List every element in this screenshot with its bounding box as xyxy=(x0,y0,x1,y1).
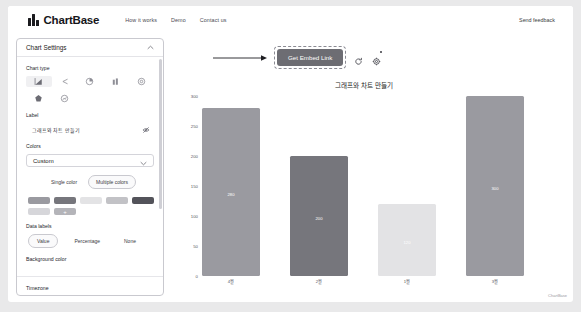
color-swatch[interactable] xyxy=(106,197,128,204)
brand-logo[interactable]: ChartBase xyxy=(28,14,99,26)
bar-logo-icon xyxy=(28,14,39,26)
bar[interactable]: 200 xyxy=(290,156,348,276)
timezone-label: Timezone xyxy=(26,285,154,291)
column-chart-icon[interactable] xyxy=(103,76,129,87)
colors-label: Colors xyxy=(26,143,154,149)
color-swatch[interactable] xyxy=(80,197,102,204)
label-field-value: 그래프와 차트 만들기 xyxy=(32,126,80,133)
bar[interactable]: 120 xyxy=(378,204,436,276)
settings-badge xyxy=(380,51,382,53)
bar-chart-icon[interactable] xyxy=(26,76,52,87)
label-field-label: Label xyxy=(26,112,154,118)
chart-settings-header[interactable]: Chart Settings xyxy=(17,39,163,57)
single-color-button[interactable]: Single color xyxy=(44,176,84,188)
sidebar-scrollbar[interactable] xyxy=(159,59,162,209)
chart-settings-panel: Chart Settings Chart type xyxy=(16,38,164,296)
nav-link-contact-us[interactable]: Contact us xyxy=(200,17,227,23)
donut-chart-icon[interactable] xyxy=(128,76,154,87)
eye-off-icon[interactable] xyxy=(142,120,150,138)
y-tick: 100 xyxy=(176,213,198,218)
sidebar-divider xyxy=(17,276,163,277)
y-tick: 200 xyxy=(176,153,198,158)
background-color-label: Background color xyxy=(26,256,154,262)
data-labels-section: Data labels Value Percentage None xyxy=(17,223,163,248)
bar[interactable]: 280 xyxy=(202,108,260,276)
nav-link-demo[interactable]: Demo xyxy=(171,17,186,23)
chevron-up-icon[interactable] xyxy=(147,45,154,51)
line-chart-icon[interactable] xyxy=(52,76,78,87)
x-axis: 4월 2월 1월 3월 xyxy=(202,278,524,284)
panel-title: Chart Settings xyxy=(26,44,67,51)
x-tick: 1월 xyxy=(378,278,436,284)
get-embed-link-highlight: Get Embed Link xyxy=(274,46,346,69)
data-label-none-button[interactable]: None xyxy=(116,235,144,247)
chevron-down-icon[interactable] xyxy=(140,152,147,170)
color-swatch[interactable] xyxy=(28,197,50,204)
bar-value-label: 120 xyxy=(378,240,436,245)
y-tick: 50 xyxy=(176,243,198,248)
color-swatches: + xyxy=(26,197,154,215)
timezone-section[interactable]: Timezone xyxy=(17,285,163,291)
add-color-button[interactable]: + xyxy=(54,208,76,215)
y-axis: 300 250 200 150 100 50 0 xyxy=(176,96,198,276)
chart-type-section: Chart type xyxy=(17,65,163,104)
chart-plot: 300 250 200 150 100 50 0 280 200 xyxy=(164,96,564,286)
top-navbar: ChartBase How it works Demo Contact us S… xyxy=(8,6,573,34)
data-label-percentage-button[interactable]: Percentage xyxy=(66,235,108,247)
send-feedback-link[interactable]: Send feedback xyxy=(519,17,555,23)
bar-value-label: 300 xyxy=(466,186,524,191)
chart-type-options xyxy=(26,76,154,104)
data-labels-options: Value Percentage None xyxy=(26,234,154,248)
colors-select-value: Custom xyxy=(33,158,54,164)
multiple-colors-button[interactable]: Multiple colors xyxy=(88,175,136,189)
pie-chart-icon[interactable] xyxy=(77,76,103,87)
bar-value-label: 280 xyxy=(202,192,260,197)
nav-link-how-it-works[interactable]: How it works xyxy=(125,17,157,23)
y-tick: 300 xyxy=(176,94,198,99)
data-label-value-button[interactable]: Value xyxy=(28,234,58,248)
color-mode-toggle: Single color Multiple colors xyxy=(26,175,154,189)
app-window: ChartBase How it works Demo Contact us S… xyxy=(8,6,573,302)
background-color-section[interactable]: Background color xyxy=(17,256,163,262)
data-labels-label: Data labels xyxy=(26,223,154,229)
get-embed-link-button[interactable]: Get Embed Link xyxy=(277,49,343,66)
color-swatch[interactable] xyxy=(132,197,154,204)
y-tick: 250 xyxy=(176,123,198,128)
bar-slot: 120 xyxy=(378,96,436,276)
y-tick: 0 xyxy=(176,274,198,279)
color-swatch[interactable] xyxy=(54,197,76,204)
bar-series: 280 200 120 300 xyxy=(202,96,524,276)
color-swatch[interactable] xyxy=(28,208,50,215)
bar-value-label: 200 xyxy=(290,216,348,221)
bar-slot: 300 xyxy=(466,96,524,276)
radar-chart-icon[interactable] xyxy=(26,93,52,104)
x-tick: 3월 xyxy=(466,278,524,284)
chart-title: 그래프와 차트 만들기 xyxy=(164,80,564,90)
nav-links: How it works Demo Contact us xyxy=(125,17,226,23)
colors-section: Colors Custom Single color Multiple colo… xyxy=(17,143,163,215)
bar[interactable]: 300 xyxy=(466,96,524,276)
label-value-row[interactable]: 그래프와 차트 만들기 xyxy=(26,123,154,135)
x-tick: 4월 xyxy=(202,278,260,284)
brand-name: ChartBase xyxy=(44,14,100,26)
gear-icon[interactable] xyxy=(372,52,381,70)
bar-slot: 280 xyxy=(202,96,260,276)
label-section: Label 그래프와 차트 만들기 xyxy=(17,112,163,135)
bubble-chart-icon[interactable] xyxy=(52,93,78,104)
watermark: ChartBase xyxy=(548,293,567,298)
y-tick: 150 xyxy=(176,184,198,189)
bar-slot: 200 xyxy=(290,96,348,276)
annotation-arrow xyxy=(213,54,268,62)
x-tick: 2월 xyxy=(290,278,348,284)
chart-type-label: Chart type xyxy=(26,65,154,71)
chart-canvas: 그래프와 차트 만들기 300 250 200 150 100 50 0 280 xyxy=(164,70,564,295)
colors-select[interactable]: Custom xyxy=(26,154,154,167)
refresh-icon[interactable] xyxy=(354,52,363,70)
